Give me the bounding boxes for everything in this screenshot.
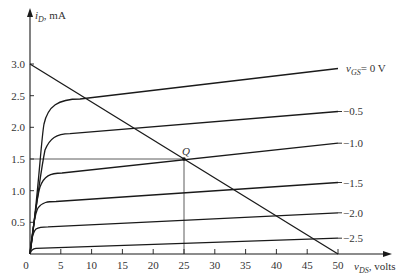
svg-text:35: 35 — [240, 259, 252, 271]
curve-label-vgs-minus-2-0: −2.0 — [343, 207, 363, 219]
svg-text:2.5: 2.5 — [11, 90, 25, 102]
curve-label-vgs-minus-2-5: −2.5 — [343, 232, 363, 244]
svg-text:iD, mA: iD, mA — [35, 9, 66, 24]
svg-text:vDS, volts: vDS, volts — [354, 260, 396, 275]
svg-text:30: 30 — [209, 259, 221, 271]
svg-text:40: 40 — [271, 259, 283, 271]
svg-text:0: 0 — [23, 259, 29, 271]
svg-text:5: 5 — [58, 259, 64, 271]
curve-label-vgs-minus-1-5: −1.5 — [343, 177, 363, 189]
curve-labels: vGS= 0 V −0.5 −1.0 −1.5 −2.0 −2.5 — [343, 62, 386, 244]
x-ticks — [61, 249, 338, 254]
x-tick-labels: 0 5 10 15 20 25 30 35 40 45 50 — [23, 259, 344, 271]
y-axis-title: iD, mA — [35, 9, 66, 24]
curve-label-vgs-0: vGS= 0 V — [346, 62, 386, 77]
svg-text:0.5: 0.5 — [11, 216, 25, 228]
svg-text:1.5: 1.5 — [11, 153, 25, 165]
svg-text:15: 15 — [117, 259, 129, 271]
y-ticks — [30, 64, 34, 222]
y-tick-labels: 0.5 1.0 1.5 2.0 2.5 3.0 — [11, 58, 25, 228]
q-label: Q — [182, 145, 190, 157]
curve-label-vgs-minus-0-5: −0.5 — [343, 105, 363, 117]
drain-characteristics-chart: 0 5 10 15 20 25 30 35 40 45 50 0.5 1.0 1… — [0, 0, 416, 280]
svg-text:45: 45 — [302, 259, 314, 271]
svg-text:10: 10 — [86, 259, 98, 271]
x-axis-arrow-icon — [383, 251, 392, 257]
svg-text:1.0: 1.0 — [11, 185, 25, 197]
svg-text:20: 20 — [148, 259, 160, 271]
svg-text:2.0: 2.0 — [11, 121, 25, 133]
y-axis-arrow-icon — [27, 8, 33, 17]
x-axis-title: vDS, volts — [354, 260, 396, 275]
svg-text:3.0: 3.0 — [11, 58, 25, 70]
svg-text:25: 25 — [179, 259, 191, 271]
label-leaders — [338, 112, 342, 239]
svg-text:50: 50 — [333, 259, 345, 271]
q-point-marker — [182, 157, 186, 161]
curve-label-vgs-minus-1-0: −1.0 — [343, 137, 363, 149]
